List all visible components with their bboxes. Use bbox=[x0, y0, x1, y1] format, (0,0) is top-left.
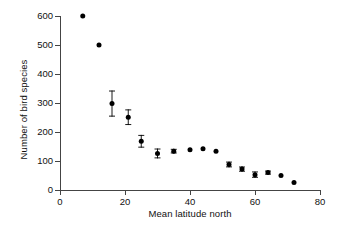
y-axis-ticks bbox=[55, 17, 60, 191]
axis-lines bbox=[60, 16, 320, 191]
data-point-marker bbox=[188, 147, 193, 152]
data-point-marker bbox=[126, 115, 131, 120]
data-point-marker bbox=[201, 146, 206, 151]
data-point-marker bbox=[171, 149, 176, 154]
data-point-marker bbox=[240, 167, 245, 172]
data-point-marker bbox=[97, 43, 102, 48]
x-tick-label: 20 bbox=[113, 196, 137, 207]
data-point-marker bbox=[266, 170, 271, 175]
y-axis-title: Number of bird species bbox=[18, 36, 29, 184]
data-point-marker bbox=[279, 173, 284, 178]
data-point-marker bbox=[155, 151, 160, 156]
data-point-marker bbox=[110, 101, 115, 106]
data-point-marker bbox=[253, 172, 258, 177]
data-point-marker bbox=[80, 14, 85, 19]
scatter-plot-figure: 0100200300400500600 020406080 Number of … bbox=[0, 0, 343, 228]
y-tick-label: 0 bbox=[23, 184, 53, 195]
y-tick-label: 600 bbox=[23, 10, 53, 21]
x-tick-label: 40 bbox=[178, 196, 202, 207]
x-tick-label: 0 bbox=[48, 196, 72, 207]
data-point-marker bbox=[227, 162, 232, 167]
data-points-layer bbox=[80, 14, 296, 185]
x-tick-label: 80 bbox=[308, 196, 332, 207]
data-point-marker bbox=[139, 139, 144, 144]
x-tick-label: 60 bbox=[243, 196, 267, 207]
data-point-marker bbox=[214, 149, 219, 154]
x-axis-title: Mean latitude north bbox=[60, 208, 320, 219]
data-point-marker bbox=[292, 180, 297, 185]
